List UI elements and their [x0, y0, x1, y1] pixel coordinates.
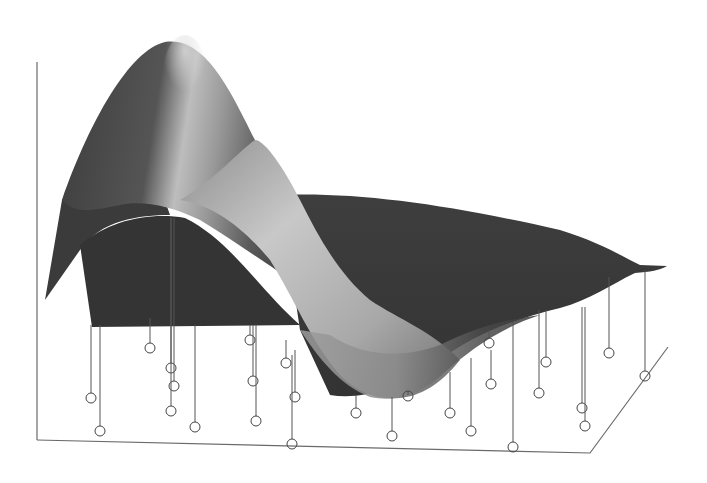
- data-point-marker: [145, 343, 155, 353]
- data-point-marker: [251, 416, 261, 426]
- data-point-marker: [541, 357, 551, 367]
- data-point-marker: [190, 422, 200, 432]
- data-point-marker: [95, 426, 105, 436]
- plot-canvas: [0, 0, 707, 483]
- data-point-marker: [387, 431, 397, 441]
- data-point-marker: [166, 406, 176, 416]
- data-point-marker: [86, 393, 96, 403]
- data-point-marker: [508, 442, 518, 452]
- data-point-marker: [640, 371, 650, 381]
- data-point-marker: [580, 421, 590, 431]
- surface-peak-highlight: [163, 35, 207, 115]
- data-point-marker: [486, 379, 496, 389]
- data-point-marker: [466, 426, 476, 436]
- data-point-marker: [287, 439, 297, 449]
- data-point-marker: [281, 358, 291, 368]
- data-point-marker: [445, 408, 455, 418]
- data-point-marker: [351, 408, 361, 418]
- data-point-marker: [484, 338, 494, 348]
- surface-plot-3d: [0, 0, 707, 483]
- data-point-marker: [604, 348, 614, 358]
- data-point-marker: [534, 388, 544, 398]
